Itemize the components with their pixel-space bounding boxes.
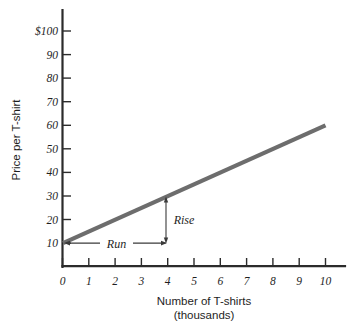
x-tick-label-0: 0 <box>60 275 66 287</box>
chart-figure: $100 90 80 70 60 50 40 30 20 10 <box>0 0 356 326</box>
x-tick-label-2: 2 <box>112 275 118 287</box>
x-axis-tick-labels: 0 1 2 3 4 5 6 7 8 9 10 <box>60 275 332 287</box>
y-tick-label-60: 60 <box>47 119 59 131</box>
run-label: Run <box>106 237 126 251</box>
x-tick-label-10: 10 <box>320 275 332 287</box>
y-tick-label-100: $100 <box>35 25 58 37</box>
x-tick-label-8: 8 <box>270 275 276 287</box>
x-tick-label-5: 5 <box>191 275 197 287</box>
y-tick-label-70: 70 <box>47 96 59 108</box>
y-axis-tick-labels: $100 90 80 70 60 50 40 30 20 10 <box>35 25 58 249</box>
x-tick-label-9: 9 <box>296 275 302 287</box>
rise-label: Rise <box>173 213 195 227</box>
rise-annotation: Rise <box>164 197 200 244</box>
y-axis-title: Price per T-shirt <box>10 99 22 181</box>
y-tick-label-10: 10 <box>47 237 59 249</box>
x-axis-ticks <box>63 258 326 266</box>
x-tick-label-3: 3 <box>138 275 145 287</box>
y-tick-label-30: 30 <box>46 190 59 202</box>
x-tick-label-1: 1 <box>86 275 92 287</box>
supply-curve-chart: $100 90 80 70 60 50 40 30 20 10 <box>0 0 356 326</box>
x-axis-title-sub: (thousands) <box>174 309 235 321</box>
x-tick-label-6: 6 <box>217 275 223 287</box>
y-axis-ticks <box>63 31 72 243</box>
x-axis-title: Number of T-shirts <box>157 295 252 307</box>
x-tick-label-7: 7 <box>244 275 251 287</box>
y-tick-label-90: 90 <box>47 49 59 61</box>
y-tick-label-40: 40 <box>47 166 59 178</box>
y-tick-label-50: 50 <box>47 143 59 155</box>
y-tick-label-80: 80 <box>47 72 59 84</box>
y-tick-label-20: 20 <box>47 214 59 226</box>
x-tick-label-4: 4 <box>165 275 171 287</box>
